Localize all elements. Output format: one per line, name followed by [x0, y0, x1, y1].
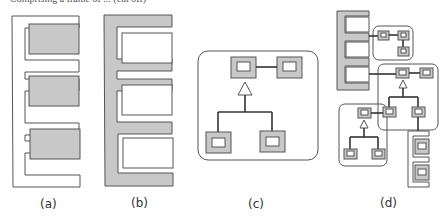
panel-d-diagram [337, 11, 438, 187]
panel-d-label: (d) [380, 196, 397, 210]
panel-b-label: (b) [131, 196, 148, 210]
diagram-canvas: .st { stroke:#555; stroke-width:1; fill:… [0, 0, 448, 217]
panel-c-diagram [198, 51, 318, 160]
panel-a-diagram [12, 16, 80, 187]
panel-a-label: (a) [40, 197, 57, 211]
panel-c-label: (c) [248, 197, 264, 211]
panel-b-diagram [104, 15, 173, 186]
